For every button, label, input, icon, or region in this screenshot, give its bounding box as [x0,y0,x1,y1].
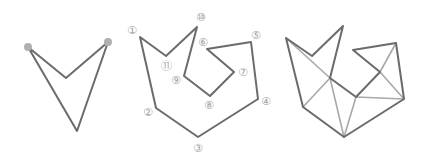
vertex-label-3: ③ [193,142,203,155]
vertex-dot [24,43,32,51]
figure-labeled-polygon: ①②③④⑤⑥⑦⑧⑨⑩⑪ [127,11,271,155]
triangulation-diagonals [286,38,404,137]
vertex-label-1: ① [127,24,137,37]
vertex-label-8: ⑧ [204,99,214,112]
vertex-label-6: ⑥ [198,36,208,49]
vertex-dot [104,38,112,46]
diagram-canvas: ①②③④⑤⑥⑦⑧⑨⑩⑪ [0,0,425,164]
triangulated-polygon [286,26,404,137]
figure-dart [24,38,112,131]
vertex-label-4: ④ [261,95,271,108]
vertex-label-7: ⑦ [238,66,248,79]
vertex-label-2: ② [143,106,153,119]
vertex-labels: ①②③④⑤⑥⑦⑧⑨⑩⑪ [127,11,271,155]
diagonal-line [303,78,330,107]
diagonal-line [380,43,396,72]
vertex-label-9: ⑨ [171,74,181,87]
vertex-label-10: ⑩ [196,11,206,24]
figure-triangulated-polygon [286,26,404,137]
vertex-label-5: ⑤ [251,29,261,42]
dart-polygon [28,42,108,131]
diagonal-line [356,97,404,99]
vertex-label-11: ⑪ [161,60,172,73]
